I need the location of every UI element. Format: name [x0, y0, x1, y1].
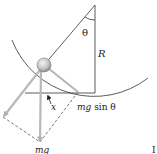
- tangential-force-mg: mg: [77, 102, 92, 112]
- pendulum-diagram: θ R x mg sin θ mg I: [0, 0, 157, 154]
- weight-arrow: [40, 70, 41, 141]
- tangential-force-label: mg sin θ: [77, 102, 116, 112]
- radius-label: R: [97, 48, 106, 59]
- weight-label: mg: [35, 145, 50, 154]
- displacement-label: x: [51, 102, 56, 112]
- theta-angle-arc: [85, 17, 95, 20]
- tangential-component-line: [48, 68, 78, 92]
- pendulum-bob: [37, 58, 51, 72]
- dashed-component-line-1: [3, 117, 40, 142]
- corner-mark: I: [152, 145, 156, 154]
- dashed-component-line-2: [40, 92, 78, 142]
- theta-label: θ: [82, 27, 88, 38]
- circular-path-arc: [12, 40, 148, 96]
- tangential-force-sin: sin θ: [91, 102, 115, 112]
